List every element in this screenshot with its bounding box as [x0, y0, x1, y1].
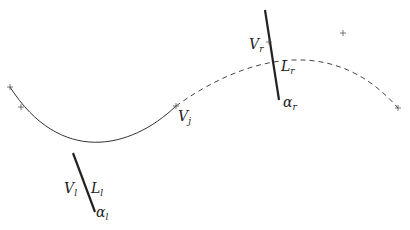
label-alpha-l: αl: [96, 205, 108, 222]
right-segment: [265, 10, 279, 100]
label-vj: Vj: [178, 109, 191, 126]
right-control-point-icon: [340, 30, 346, 36]
start-point-icon: [7, 84, 13, 90]
label-lr: Lr: [281, 59, 295, 76]
diagram-svg: [0, 0, 410, 230]
label-alpha-r: αr: [283, 95, 297, 112]
label-vr: Vr: [249, 37, 263, 54]
cross-markers: [7, 30, 401, 111]
diagram-canvas: Vj Vr Lr αr Vl Ll αl: [0, 0, 410, 230]
solid-curve: [10, 87, 176, 142]
label-vl: Vl: [64, 181, 77, 198]
label-ll: Ll: [91, 181, 103, 198]
